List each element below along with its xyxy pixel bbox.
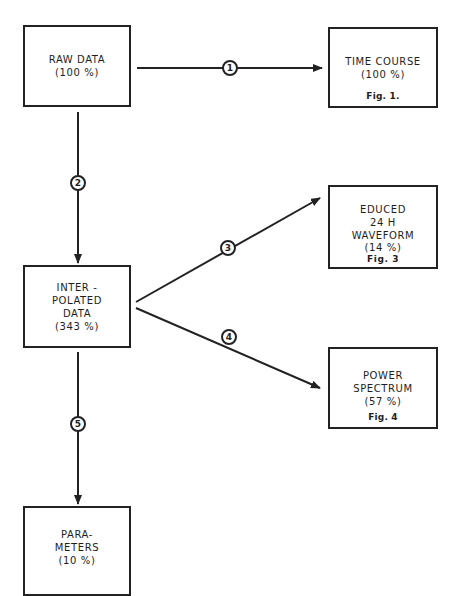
node-interpolated-data: INTER - POLATED DATA (343 %): [23, 265, 131, 348]
node-label: SPECTRUM: [353, 382, 412, 395]
node-label: RAW DATA: [49, 53, 105, 66]
node-percentage: (100 %): [361, 68, 405, 81]
node-time-course: TIME COURSE (100 %) Fig. 1.: [328, 27, 438, 108]
edge-marker-5: 5: [70, 416, 86, 432]
node-percentage: (100 %): [55, 66, 99, 79]
node-label: POWER: [363, 369, 403, 382]
figure-reference: Fig. 4: [330, 411, 436, 424]
node-label: PARA-: [61, 528, 93, 541]
edge-marker-2: 2: [70, 175, 86, 191]
node-label: METERS: [55, 541, 99, 554]
edge-marker-1: 1: [222, 60, 238, 76]
figure-reference: Fig. 1.: [330, 90, 436, 103]
node-power-spectrum: POWER SPECTRUM (57 %) Fig. 4: [328, 347, 438, 429]
node-percentage: (14 %): [365, 242, 402, 253]
node-raw-data: RAW DATA (100 %): [23, 25, 131, 107]
node-label: WAVEFORM: [352, 229, 415, 242]
node-label: TIME COURSE: [345, 55, 421, 68]
edge-marker-4: 4: [221, 329, 237, 345]
node-label: DATA: [63, 307, 91, 320]
node-educed-waveform: EDUCED 24 H WAVEFORM (14 %) Fig. 3: [328, 185, 438, 269]
node-label: 24 H: [370, 216, 396, 229]
node-percentage: (57 %): [365, 395, 402, 408]
figure-reference: Fig. 3: [367, 253, 399, 265]
node-label: POLATED: [52, 294, 102, 307]
node-label: EDUCED: [360, 203, 406, 216]
node-label: INTER -: [57, 281, 98, 294]
arrow-4: [136, 308, 320, 388]
edge-marker-3: 3: [220, 240, 236, 256]
node-percentage: (343 %): [55, 320, 99, 333]
node-percentage: (10 %): [59, 554, 96, 567]
node-parameters: PARA- METERS (10 %): [23, 506, 131, 596]
